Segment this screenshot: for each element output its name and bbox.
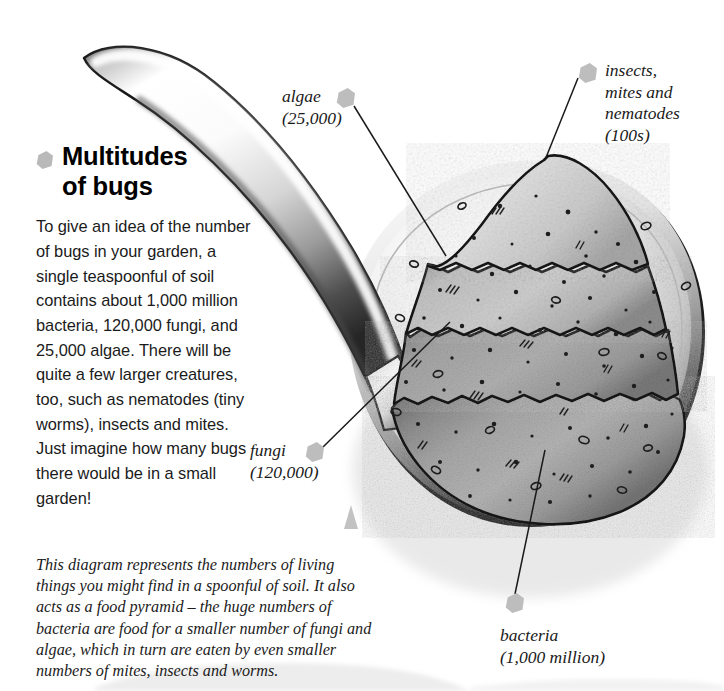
- callout-fungi-value: (120,000): [250, 462, 319, 482]
- callout-leader-lines: [322, 78, 578, 594]
- soil-cone: [390, 155, 691, 524]
- leader-line-algae: [354, 106, 446, 256]
- soil-ring-marks: [390, 202, 691, 494]
- soil-hatch-marks: [412, 208, 670, 482]
- callout-marker-bacteria: [505, 593, 524, 613]
- page-title: Multitudes of bugs: [62, 142, 188, 201]
- soil-layer-fungi: [394, 329, 678, 404]
- page-root: Multitudes of bugs To give an idea of th…: [0, 0, 724, 691]
- callout-fungi-name: fungi: [250, 440, 286, 460]
- callout-insects-name: insects, mites and nematodes: [605, 60, 680, 123]
- callout-label-insects: insects, mites and nematodes (100s): [605, 60, 680, 146]
- spoon-neck: [366, 356, 430, 430]
- callout-marker-insects: [578, 63, 597, 83]
- leader-line-insects: [545, 78, 578, 160]
- leader-line-bacteria: [515, 450, 545, 594]
- callout-label-fungi: fungi (120,000): [250, 440, 319, 483]
- soil-layer-bacteria: [392, 390, 685, 524]
- spoon-bowl-rim: [349, 160, 702, 521]
- pentagon-marker-icon: [36, 151, 53, 169]
- callout-label-algae: algae (25,000): [282, 86, 342, 129]
- caption-triangle-icon: [344, 505, 358, 529]
- soil-layer-insects: [428, 155, 648, 270]
- callout-insects-value: (100s): [605, 125, 650, 145]
- spoon-shadow: [352, 342, 708, 598]
- callout-label-bacteria: bacteria (1,000 million): [500, 625, 605, 668]
- article-caption: This diagram represents the numbers of l…: [36, 555, 376, 682]
- article-body: To give an idea of the number of bugs in…: [36, 214, 251, 510]
- heading-row: Multitudes of bugs: [36, 142, 251, 201]
- callout-bacteria-name: bacteria: [500, 625, 558, 645]
- leader-line-fungi: [322, 322, 450, 448]
- callout-algae-name: algae: [282, 86, 321, 106]
- spoon-bowl-interior: [362, 173, 691, 508]
- spoon-bowl-underside: [352, 163, 705, 527]
- article-text-column: Multitudes of bugs To give an idea of th…: [36, 142, 251, 527]
- soil-speckles: [404, 194, 674, 504]
- spoon-bowl-inner-line: [372, 183, 682, 498]
- callout-bacteria-value: (1,000 million): [500, 647, 605, 667]
- callout-algae-value: (25,000): [282, 108, 342, 128]
- soil-layer-algae: [406, 264, 666, 335]
